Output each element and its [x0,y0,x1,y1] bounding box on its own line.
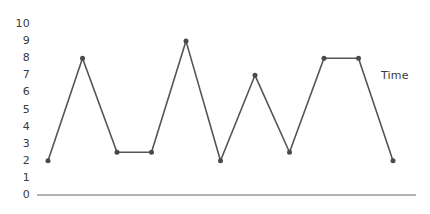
data-point [253,73,258,78]
data-point [115,150,120,155]
data-series-line [48,41,393,161]
data-point [287,150,292,155]
data-point [80,56,85,61]
x-axis-label: Time [381,70,409,81]
y-axis-tick-label: 0 [8,189,30,200]
chart-plot-area [0,0,430,214]
y-axis-tick-label: 2 [8,155,30,166]
data-point [184,39,189,44]
y-axis-tick-label: 5 [8,104,30,115]
data-point [46,158,51,163]
data-point [322,56,327,61]
y-axis-tick-label: 9 [8,35,30,46]
data-point [356,56,361,61]
data-point [391,158,396,163]
data-point [149,150,154,155]
line-chart: 109876543210 Time [0,0,430,214]
y-axis-tick-label: 4 [8,121,30,132]
y-axis-tick-label: 8 [8,52,30,63]
data-point [218,158,223,163]
y-axis-tick-label: 3 [8,138,30,149]
y-axis-tick-label: 6 [8,86,30,97]
y-axis-tick-label: 1 [8,172,30,183]
y-axis-tick-label: 10 [8,18,30,29]
y-axis-tick-label: 7 [8,69,30,80]
